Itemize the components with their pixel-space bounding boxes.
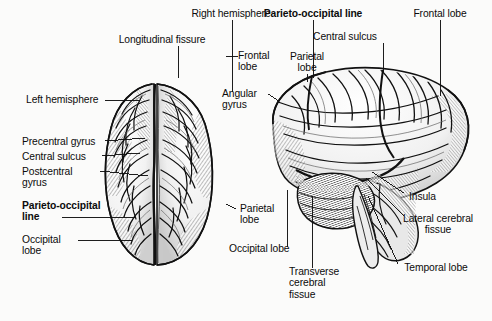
label-temporal-lobe: Temporal lobe [388,262,484,273]
label-left-hemisphere: Left hemisphere [26,94,98,105]
brain-anatomy-figure: Right hemisphere Longitudinal fissure Le… [0,0,492,321]
label-parietal-lobe-top: Parietal lobe [277,51,337,74]
label-frontal-lobe-right: Frontal lobe [396,8,484,19]
label-parieto-occipital-line-left: Parieto-occipital line [22,200,100,223]
label-lateral-cerebral-fissue: Lateral cerebral fissue [392,213,484,236]
label-central-sulcus-right: Central sulcus [297,31,393,42]
label-parietal-lobe-bottom: Parietal lobe [240,203,274,226]
label-occipital-lobe-bottom: Occipital lobe [229,243,289,254]
label-precentral-gyrus: Precentral gyrus [22,136,95,147]
label-frontal-lobe-center: Frontal lobe [238,50,269,73]
label-postcentral-gyrus: Postcentral gyrus [22,166,72,189]
label-parieto-occipital-line-top: Parieto-occipital line [243,8,383,19]
label-insula: Insula [409,191,436,202]
label-transverse-cerebral-fissue: Transverse cerebral fissue [289,266,339,300]
label-occipital-lobe-left: Occipital lobe [22,234,61,257]
label-longitudinal-fissure: Longitudinal fissure [100,34,224,45]
label-angular-gyrus: Angular gyrus [222,88,257,111]
label-central-sulcus-left: Central sulcus [22,151,86,162]
